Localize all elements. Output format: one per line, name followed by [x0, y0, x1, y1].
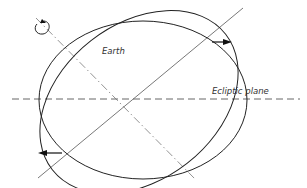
earth-sphere-outline [39, 21, 247, 179]
rotation-arrow-icon [35, 19, 49, 34]
earth-label: Earth [102, 46, 125, 56]
ecliptic-plane-label: Ecliptic plane [212, 86, 269, 96]
earth-ecliptic-diagram: Earth Ecliptic plane [0, 0, 307, 188]
diagram-canvas: Earth Ecliptic plane [0, 0, 307, 188]
arrow-left-icon [38, 150, 62, 156]
